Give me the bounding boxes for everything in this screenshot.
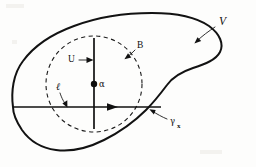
outer-region-boundary	[12, 13, 221, 151]
boundary-curve-leader-arrowhead	[149, 109, 155, 114]
center-point-dot	[91, 81, 97, 87]
horizontal-axis-arrowhead	[107, 103, 118, 107]
horizontal-axis-arrowhead-lower	[107, 107, 118, 111]
center-point-label: α	[99, 79, 105, 89]
outer-region-leader-line	[197, 27, 215, 41]
radius-label: ℓ	[56, 81, 60, 92]
figure-container: U α ℓ B V γ x	[0, 0, 256, 167]
boundary-curve-label: γ	[170, 116, 175, 126]
circle-boundary-label: B	[137, 40, 143, 50]
velocity-arrowhead	[87, 57, 94, 63]
diagram-canvas: U α ℓ B V γ x	[0, 0, 256, 167]
velocity-label: U	[68, 54, 75, 64]
boundary-curve-subscript: x	[177, 122, 181, 130]
outer-region-label: V	[219, 15, 228, 27]
